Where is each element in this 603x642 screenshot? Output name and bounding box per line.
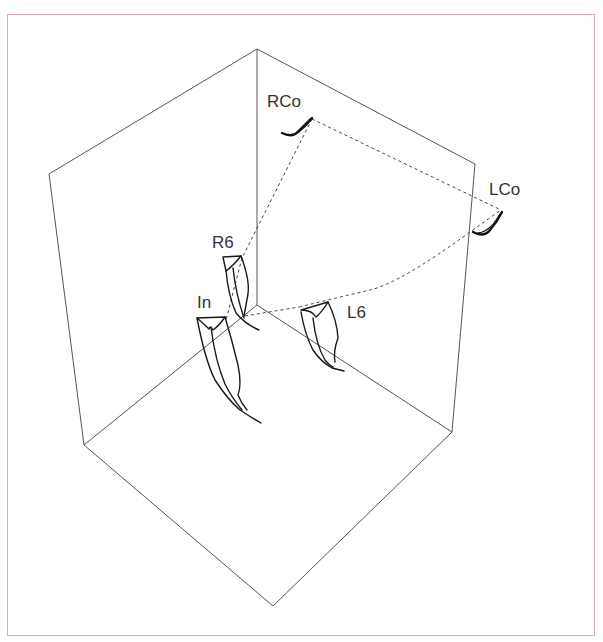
label-rco: RCo [267, 92, 301, 111]
cube-diagram: RCo LCo R6 In L6 [0, 0, 603, 642]
label-in: In [197, 293, 211, 312]
l6-lco-connection [299, 210, 501, 307]
label-lco: LCo [489, 180, 520, 199]
label-r6: R6 [212, 233, 234, 252]
l6-trace [301, 302, 344, 371]
cube-wireframe [49, 49, 475, 606]
label-l6: L6 [347, 303, 366, 322]
landmark-connections [226, 119, 501, 320]
rco-trace-inner [296, 119, 310, 133]
cube-floor-left-edge [84, 305, 257, 445]
cube-floor-right-edge [257, 305, 452, 432]
r6-trace [223, 256, 259, 330]
cube-top-edges [49, 49, 475, 174]
cube-left-vertical-edge [49, 174, 84, 445]
cube-right-vertical-edge [452, 164, 475, 432]
lco-trace [473, 212, 502, 235]
rco-r6-connection [242, 119, 312, 258]
in-trace [197, 317, 261, 423]
cube-bottom-edges [84, 432, 452, 606]
